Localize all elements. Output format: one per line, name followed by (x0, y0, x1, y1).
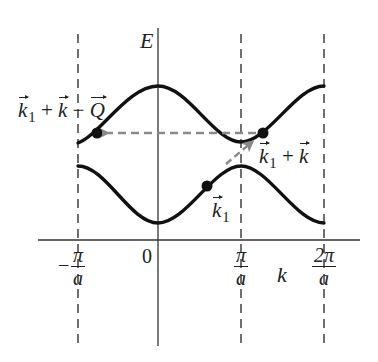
tick-pi-over-a: π a (234, 245, 248, 288)
tick-minus-pi-over-a: π a (71, 245, 85, 288)
band-diagram: E k 0 − π a π a 2π a k1 + k − Q k1 + k k… (0, 0, 378, 362)
subscript-1: 1 (28, 109, 35, 125)
tick-numerator: π (71, 245, 85, 267)
subscript-1: 1 (269, 155, 276, 171)
vector-k: k (299, 146, 308, 167)
plus-sign: + (282, 144, 294, 168)
label-k1-plus-k-minus-q: k1 + k − Q (18, 100, 105, 121)
tick-numerator: π (234, 245, 248, 267)
tick-denominator: a (319, 267, 329, 288)
state-dot-k1-plus-k (258, 128, 269, 139)
vector-k: k (259, 146, 268, 167)
vector-k: k (18, 100, 27, 121)
tick-minus-sign: − (58, 254, 69, 277)
tick-denominator: a (73, 267, 83, 288)
state-dot-k1-plus-k-minus-q (92, 128, 103, 139)
tick-numerator: 2π (312, 245, 336, 267)
state-dot-k1 (202, 181, 213, 192)
vector-k: k (212, 200, 221, 221)
vector-k: k (58, 100, 67, 121)
upper-band-curve (78, 86, 324, 143)
subscript-1: 1 (222, 209, 229, 225)
label-k1-plus-k: k1 + k (259, 146, 308, 167)
diagram-svg (0, 0, 378, 362)
tick-denominator: a (236, 267, 246, 288)
y-axis-label: E (140, 30, 153, 52)
lower-band-curve (78, 166, 324, 223)
minus-sign: − (73, 98, 85, 122)
tick-2pi-over-a: 2π a (312, 245, 336, 288)
vector-q: Q (90, 100, 105, 121)
plus-sign: + (41, 98, 53, 122)
origin-label: 0 (142, 246, 152, 266)
label-k1: k1 (212, 200, 230, 221)
x-axis-label: k (277, 264, 287, 286)
scattering-arrow (226, 142, 252, 164)
